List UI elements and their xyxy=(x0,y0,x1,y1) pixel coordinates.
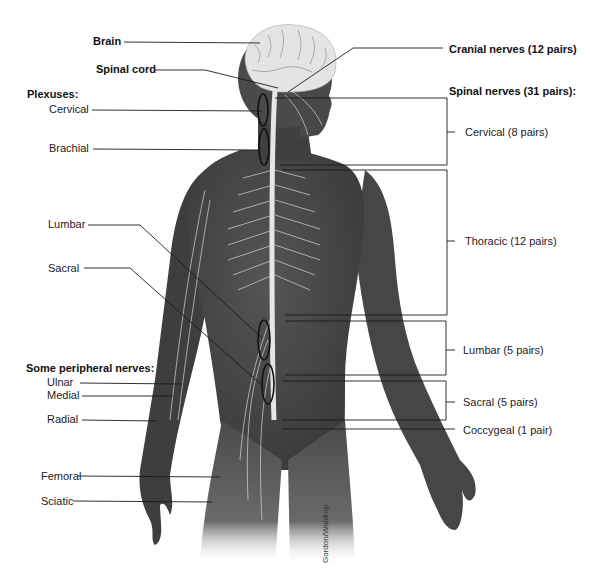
label-spinal-cervical: Cervical (8 pairs) xyxy=(465,126,548,139)
illustrator-credit: Gordon/Waldrop xyxy=(321,505,330,563)
label-peripheral-heading: Some peripheral nerves: xyxy=(26,362,154,375)
label-spinal-thoracic: Thoracic (12 pairs) xyxy=(465,235,557,248)
label-plexus-sacral: Sacral xyxy=(48,262,79,275)
label-cranial-nerves: Cranial nerves (12 pairs) xyxy=(449,43,577,56)
label-spinal-nerves-heading: Spinal nerves (31 pairs): xyxy=(449,85,576,98)
label-plexus-cervical: Cervical xyxy=(49,103,89,116)
body-silhouette xyxy=(139,25,475,565)
label-spinal-coccygeal: Coccygeal (1 pair) xyxy=(463,424,552,437)
label-plexus-lumbar: Lumbar xyxy=(48,218,85,231)
label-spinal-cord: Spinal cord xyxy=(96,63,156,76)
label-nerve-medial: Medial xyxy=(47,389,79,402)
label-spinal-lumbar: Lumbar (5 pairs) xyxy=(463,344,544,357)
label-plexuses-heading: Plexuses: xyxy=(27,88,78,101)
label-nerve-femoral: Femoral xyxy=(41,470,81,483)
label-plexus-brachial: Brachial xyxy=(49,142,89,155)
label-brain: Brain xyxy=(93,35,121,48)
label-nerve-sciatic: Sciatic xyxy=(41,495,73,508)
label-spinal-sacral: Sacral (5 pairs) xyxy=(463,396,538,409)
label-nerve-radial: Radial xyxy=(47,413,78,426)
label-nerve-ulnar: Ulnar xyxy=(47,376,73,389)
